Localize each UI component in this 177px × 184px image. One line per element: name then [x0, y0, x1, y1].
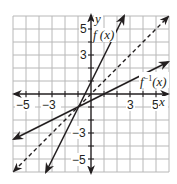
- y-tick-neg5: −5: [72, 153, 86, 167]
- function-inverse-graph: −5 −3 3 5 5 3 −3 −5 y x f (x) f−1(x): [0, 0, 177, 184]
- x-tick-neg3: −3: [42, 98, 56, 112]
- x-tick-3: 3: [127, 98, 134, 112]
- y-tick-neg3: −3: [72, 126, 86, 140]
- y-tick-5: 5: [80, 22, 87, 36]
- x-tick-5: 5: [152, 98, 159, 112]
- f-label: f (x): [93, 27, 114, 42]
- f-inverse-label: f−1(x): [139, 72, 169, 89]
- y-axis-label: y: [93, 11, 101, 26]
- x-tick-neg5: −5: [16, 98, 30, 112]
- x-axis-label: x: [158, 94, 165, 109]
- y-tick-3: 3: [80, 48, 87, 62]
